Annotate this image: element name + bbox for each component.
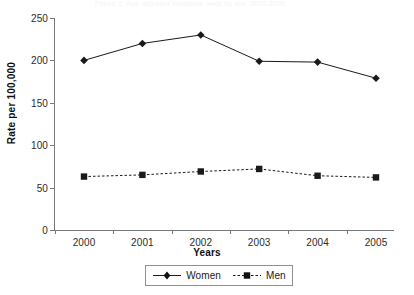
data-point-men-2003[interactable]: [256, 166, 262, 172]
data-point-men-2002[interactable]: [198, 168, 204, 174]
data-point-women-2000[interactable]: [80, 57, 88, 65]
data-point-men-2005[interactable]: [373, 174, 379, 180]
clipped-caption-fragment: Figure 2. Age-adjusted incidence rates b…: [95, 0, 395, 7]
legend-label-men: Men: [266, 270, 286, 281]
legend-swatch-dashed-square-icon: [232, 270, 262, 281]
y-tick-label: 250: [31, 13, 48, 24]
series-line-men: [84, 169, 376, 177]
y-tick-label: 0: [42, 225, 48, 236]
data-point-men-2001[interactable]: [139, 172, 145, 178]
data-point-women-2003[interactable]: [255, 57, 263, 65]
legend-entry-women[interactable]: Women: [152, 270, 221, 281]
series-women: [80, 31, 380, 82]
data-point-women-2001[interactable]: [139, 40, 147, 48]
data-point-men-2000[interactable]: [81, 173, 87, 179]
series-line-women: [84, 35, 376, 78]
y-axis-title: Rate per 100,000: [6, 62, 20, 144]
data-point-women-2005[interactable]: [372, 74, 380, 82]
legend-entry-men[interactable]: Men: [232, 270, 286, 281]
y-tick-label: 50: [37, 182, 48, 193]
data-point-women-2002[interactable]: [197, 31, 205, 39]
legend-label-women: Women: [186, 270, 221, 281]
data-point-men-2004[interactable]: [314, 173, 320, 179]
data-point-women-2004[interactable]: [314, 58, 322, 66]
legend-swatch-solid-diamond-icon: [152, 270, 182, 281]
series-men: [81, 166, 379, 181]
chart-legend: Women Men: [145, 265, 293, 286]
data-series-layer: [54, 18, 394, 231]
y-tick-label: 200: [31, 55, 48, 66]
chart-figure: Figure 2. Age-adjusted incidence rates b…: [0, 0, 414, 295]
x-axis-title: Years: [0, 247, 414, 258]
y-tick-label: 150: [31, 97, 48, 108]
plot-area: 050100150200250 200020012002200320042005: [54, 18, 394, 230]
y-tick-label: 100: [31, 140, 48, 151]
